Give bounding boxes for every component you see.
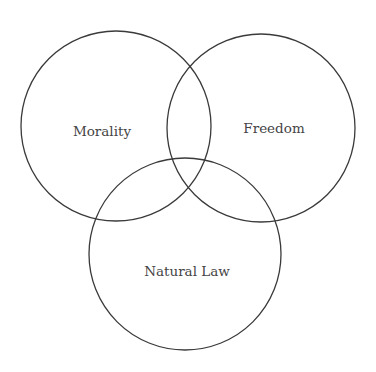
- morality-label: Morality: [73, 123, 132, 139]
- set-freedom: Freedom: [167, 34, 355, 222]
- venn-diagram: Morality Freedom Natural Law: [0, 0, 376, 372]
- natural-law-label: Natural Law: [144, 263, 230, 279]
- set-morality: Morality: [21, 31, 211, 221]
- freedom-label: Freedom: [243, 120, 305, 136]
- natural-law-circle: [89, 158, 281, 350]
- set-natural-law: Natural Law: [89, 158, 281, 350]
